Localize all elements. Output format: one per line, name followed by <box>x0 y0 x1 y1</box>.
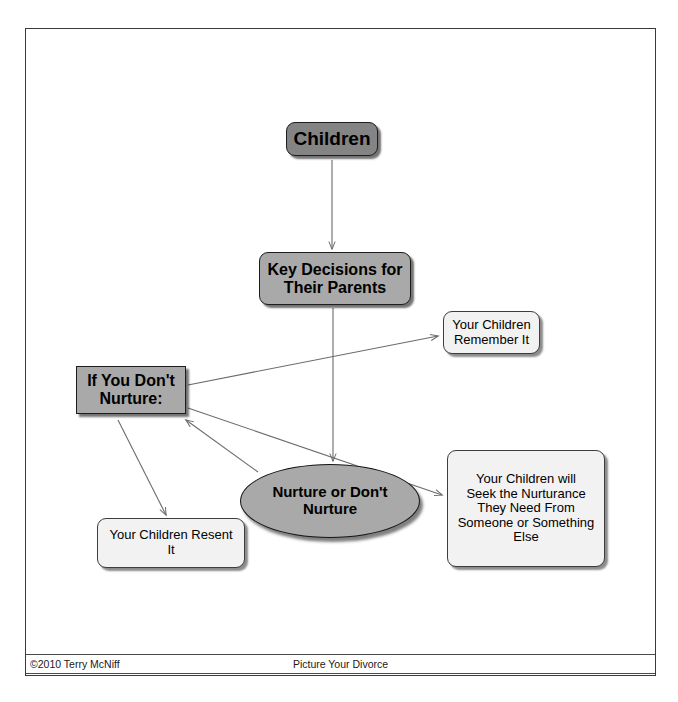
footer-title: Picture Your Divorce <box>26 658 655 670</box>
node-your-children-resent-it[interactable]: Your Children Resent It <box>97 518 245 568</box>
slide-footer: ©2010 Terry McNiff Picture Your Divorce <box>26 654 655 674</box>
node-children-seek-nurturance[interactable]: Your Children will Seek the Nurturance T… <box>447 450 605 567</box>
node-children[interactable]: Children <box>286 122 378 156</box>
edge-if-dont-to-remember <box>188 336 438 385</box>
node-key-decisions[interactable]: Key Decisions for Their Parents <box>259 252 411 305</box>
slide-page: Children Key Decisions for Their Parents… <box>0 0 678 702</box>
flowchart-diagram: Children Key Decisions for Their Parents… <box>0 0 678 702</box>
edge-if-dont-to-resent <box>118 420 166 515</box>
node-nurture-or-dont-nurture[interactable]: Nurture or Don't Nurture <box>240 464 420 538</box>
node-if-you-dont-nurture[interactable]: If You Don't Nurture: <box>76 366 186 414</box>
connector-layer <box>0 0 678 702</box>
node-your-children-remember-it[interactable]: Your Children Remember It <box>443 311 540 354</box>
edge-nurture-to-if-dont <box>186 420 258 472</box>
